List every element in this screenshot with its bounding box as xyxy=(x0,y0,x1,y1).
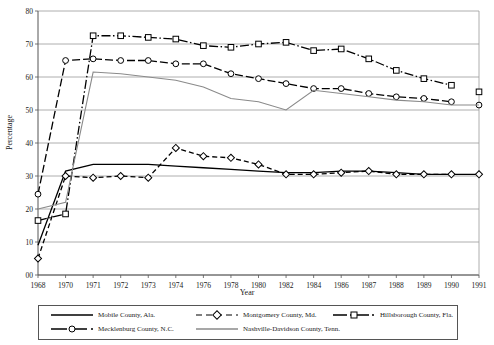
data-point-marker xyxy=(145,58,151,64)
legend-label: Montgomery County, Md. xyxy=(243,310,316,320)
data-point-marker xyxy=(256,76,262,82)
data-point-marker xyxy=(393,94,399,100)
legend-item-montgomery-county: Montgomery County, Md. xyxy=(194,310,316,320)
data-point-marker xyxy=(449,99,455,105)
data-point-marker xyxy=(228,71,234,77)
data-point-marker xyxy=(63,211,69,217)
y-tick-label: 10 xyxy=(26,238,34,247)
data-point-marker xyxy=(311,48,317,54)
data-point-marker xyxy=(173,61,179,67)
data-point-marker xyxy=(228,45,234,51)
data-point-marker xyxy=(338,86,344,92)
legend-key-mobile-county xyxy=(49,310,95,320)
data-point-marker xyxy=(90,33,96,39)
data-point-marker xyxy=(449,82,455,88)
data-point-marker xyxy=(145,35,151,41)
x-axis-title: Year xyxy=(0,288,494,297)
legend-item-mecklenburg-county: Mecklenburg County, N.C. xyxy=(49,324,174,334)
legend-item-hillsborough-county: Hillsborough County, Fla. xyxy=(331,310,453,320)
data-point-marker xyxy=(476,89,482,95)
y-tick-label: 20 xyxy=(26,205,34,214)
data-point-marker xyxy=(256,41,262,47)
legend-label: Nashville-Davidson County, Tenn. xyxy=(243,324,340,334)
data-point-marker xyxy=(394,68,400,74)
y-tick-label: 40 xyxy=(26,139,34,148)
y-tick-label: 30 xyxy=(26,172,34,181)
legend-key-mecklenburg-county xyxy=(49,324,95,334)
y-tick-label: 50 xyxy=(26,106,34,115)
y-tick-label: 70 xyxy=(26,40,34,49)
legend-label: Hillsborough County, Fla. xyxy=(380,310,453,320)
data-point-marker xyxy=(283,81,289,87)
data-point-marker xyxy=(200,61,206,67)
data-point-marker xyxy=(338,46,344,52)
legend-label: Mecklenburg County, N.C. xyxy=(98,324,174,334)
data-point-marker xyxy=(201,43,207,49)
legend-label: Mobile County, Ala. xyxy=(98,310,155,320)
data-point-marker xyxy=(283,40,289,46)
y-tick-label: 80 xyxy=(26,7,34,16)
data-point-marker xyxy=(421,96,427,102)
data-point-marker xyxy=(173,36,179,42)
data-point-marker xyxy=(366,56,372,62)
y-tick-label: 60 xyxy=(26,73,34,82)
y-tick-label: 00 xyxy=(26,271,34,280)
data-point-marker xyxy=(35,218,41,224)
data-point-marker xyxy=(366,91,372,97)
legend-item-mobile-county: Mobile County, Ala. xyxy=(49,310,155,320)
data-point-marker xyxy=(63,58,69,64)
legend-key-nashville-davidson-county xyxy=(194,324,240,334)
data-point-marker xyxy=(118,58,124,64)
legend-key-montgomery-county xyxy=(194,310,240,320)
data-point-marker xyxy=(35,191,41,197)
chart-container: 0010203040506070801968197019711972197319… xyxy=(0,0,494,345)
legend-item-nashville-davidson-county: Nashville-Davidson County, Tenn. xyxy=(194,324,340,334)
data-point-marker xyxy=(421,76,427,82)
data-point-marker xyxy=(90,56,96,62)
data-point-marker xyxy=(118,33,124,39)
chart-legend: Mobile County, Ala. Montgomery County, M… xyxy=(38,305,458,340)
legend-key-hillsborough-county xyxy=(331,310,377,320)
y-axis-title: Percentage xyxy=(5,98,14,168)
